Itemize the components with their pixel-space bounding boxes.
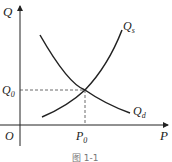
q0-label: Q0 — [2, 83, 15, 99]
demand-curve-label: Qd — [133, 104, 147, 120]
p0-label: P0 — [75, 129, 87, 145]
origin-label: O — [5, 129, 14, 143]
supply-demand-diagram: Q P O Qs Qd Q0 P0 图 1-1 — [0, 0, 172, 162]
y-axis-label: Q — [3, 4, 13, 19]
supply-curve-label: Qs — [123, 19, 135, 35]
figure-caption: 图 1-1 — [72, 153, 99, 162]
x-axis-label: P — [159, 128, 168, 143]
